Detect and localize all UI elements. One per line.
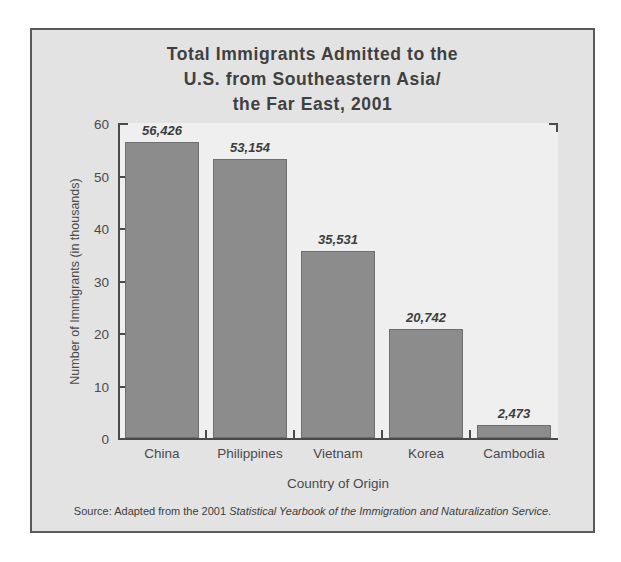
source-italic: Statistical Yearbook of the Immigration … xyxy=(229,505,548,517)
bar-value-label: 56,426 xyxy=(142,123,182,138)
bar: 35,531Vietnam xyxy=(301,251,375,438)
x-tick-label: Cambodia xyxy=(483,446,545,461)
y-tick-label: 30 xyxy=(94,274,109,289)
bar-value-label: 2,473 xyxy=(498,406,531,421)
x-axis-title: Country of Origin xyxy=(118,476,558,491)
title-line-3: the Far East, 2001 xyxy=(32,92,593,117)
y-tick xyxy=(120,438,128,440)
title-line-1: Total Immigrants Admitted to the xyxy=(32,42,593,67)
y-axis-title: Number of Immigrants (in thousands) xyxy=(68,123,86,440)
x-tick-label: Vietnam xyxy=(313,446,362,461)
x-tick xyxy=(381,430,383,438)
source-suffix: . xyxy=(548,505,551,517)
title-line-2: U.S. from Southeastern Asia/ xyxy=(32,67,593,92)
bar-value-label: 20,742 xyxy=(406,310,446,325)
y-tick-label: 20 xyxy=(94,327,109,342)
x-tick-label: Korea xyxy=(408,446,444,461)
plot-area: 0102030405060 56,426China53,154Philippin… xyxy=(118,123,558,440)
y-tick xyxy=(120,123,128,125)
y-tick-label: 60 xyxy=(94,117,109,132)
bar: 56,426China xyxy=(125,142,199,438)
x-tick xyxy=(469,430,471,438)
y-tick-label: 10 xyxy=(94,379,109,394)
bar-value-label: 53,154 xyxy=(230,140,270,155)
source-note: Source: Adapted from the 2001 Statistica… xyxy=(32,505,593,517)
page-title: Total Immigrants Admitted to the U.S. fr… xyxy=(32,42,593,117)
bar: 2,473Cambodia xyxy=(477,425,551,438)
bar-value-label: 35,531 xyxy=(318,232,358,247)
x-tick xyxy=(293,430,295,438)
x-tick-label: China xyxy=(144,446,179,461)
chart-figure: Total Immigrants Admitted to the U.S. fr… xyxy=(30,28,595,533)
x-tick-label: Philippines xyxy=(217,446,282,461)
x-axis-line xyxy=(118,438,558,440)
bar: 20,742Korea xyxy=(389,329,463,438)
y-tick-label: 50 xyxy=(94,169,109,184)
bar: 53,154Philippines xyxy=(213,159,287,438)
y-tick-label: 0 xyxy=(101,432,109,447)
x-tick xyxy=(205,430,207,438)
source-prefix: Source: Adapted from the 2001 xyxy=(74,505,229,517)
y-tick-label: 40 xyxy=(94,222,109,237)
frame-corner-right-stub xyxy=(556,123,558,132)
